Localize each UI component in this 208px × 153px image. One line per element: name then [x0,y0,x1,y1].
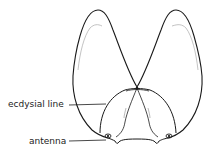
head-capsule-diagram [0,0,208,153]
head-capsule-outline [73,10,202,138]
ecdysial-line-leader [69,104,106,105]
ecdysial-junction [136,87,139,90]
right-lobe-inner-contour [172,25,198,70]
antenna-label: antenna [29,137,66,146]
antenna-leader [69,140,106,141]
clypeus-margin [108,138,168,143]
antenna-left-icon [105,134,111,138]
ecdysial-arm-left [116,88,137,137]
ecdysial-arm-left-thin [124,108,126,118]
frons-arc [100,89,176,134]
ecdysial-arm-right-thin [148,108,150,118]
ecdysial-line-label: ecdysial line [8,100,64,109]
ecdysial-arm-right [137,88,158,137]
